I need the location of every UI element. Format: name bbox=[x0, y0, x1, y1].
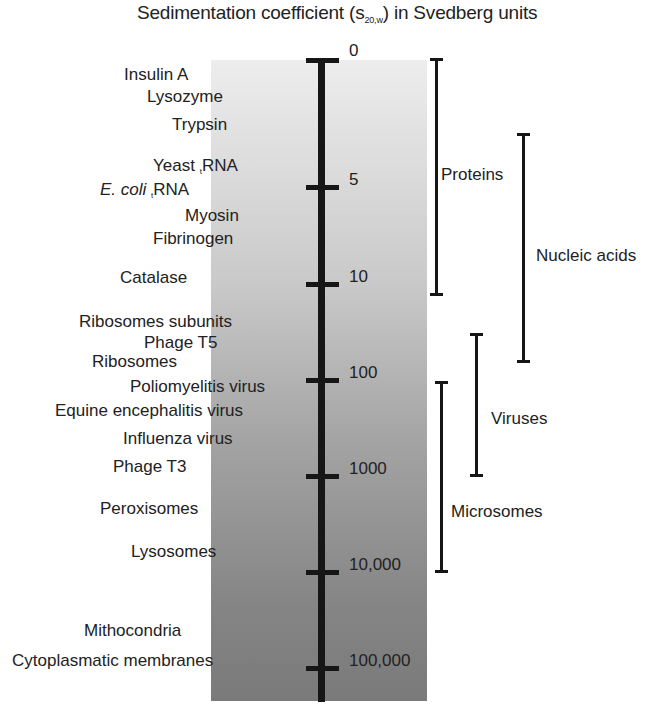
group-label-nucleic-acids: Nucleic acids bbox=[536, 246, 636, 266]
tick-5 bbox=[306, 185, 339, 190]
bracket-nucleic-acids bbox=[522, 133, 525, 363]
tick-label: 100,000 bbox=[349, 651, 410, 671]
tick-label: 1000 bbox=[349, 459, 387, 479]
group-label-microsomes: Microsomes bbox=[451, 502, 543, 522]
item-cytoplasmatic-membranes: Cytoplasmatic membranes bbox=[12, 651, 213, 671]
item-myosin: Myosin bbox=[185, 206, 239, 226]
item-phage-t3: Phage T3 bbox=[113, 457, 186, 477]
tick-10000 bbox=[306, 570, 339, 575]
diagram-title: Sedimentation coefficient (s20,w) in Sve… bbox=[137, 2, 537, 25]
item-yeast-trna: Yeast tRNA bbox=[153, 156, 238, 182]
bracket-proteins bbox=[435, 58, 438, 296]
item-mitochondria: Mithocondria bbox=[84, 621, 181, 641]
item-influenza-virus: Influenza virus bbox=[123, 429, 233, 449]
bracket-microsomes bbox=[440, 381, 443, 573]
group-label-viruses: Viruses bbox=[491, 409, 547, 429]
item-fibrinogen: Fibrinogen bbox=[153, 229, 233, 249]
item-peroxisomes: Peroxisomes bbox=[100, 499, 198, 519]
item-ribosome-subunits: Ribosomes subunits bbox=[79, 312, 232, 332]
item-trypsin: Trypsin bbox=[172, 115, 227, 135]
item-ecoli-trna: E. coli tRNA bbox=[100, 180, 189, 206]
item-phage-t5: Phage T5 bbox=[144, 333, 217, 353]
group-label-proteins: Proteins bbox=[441, 165, 503, 185]
item-lysosomes: Lysosomes bbox=[131, 542, 216, 562]
tick-100000 bbox=[306, 666, 339, 671]
tick-100 bbox=[306, 378, 339, 383]
item-lysozyme: Lysozyme bbox=[147, 87, 223, 107]
tick-label: 0 bbox=[349, 41, 358, 61]
item-poliomyelitis-virus: Poliomyelitis virus bbox=[130, 377, 265, 397]
item-ribosomes: Ribosomes bbox=[92, 352, 177, 372]
item-equine-encephalitis-virus: Equine encephalitis virus bbox=[55, 401, 243, 421]
tick-0 bbox=[306, 58, 339, 63]
item-insulin: Insulin A bbox=[124, 65, 188, 85]
tick-1000 bbox=[306, 474, 339, 479]
tick-label: 100 bbox=[349, 363, 377, 383]
tick-label: 10 bbox=[349, 267, 368, 287]
tick-10 bbox=[306, 282, 339, 287]
tick-label: 5 bbox=[349, 170, 358, 190]
tick-label: 10,000 bbox=[349, 555, 401, 575]
bracket-viruses bbox=[475, 333, 478, 477]
item-catalase: Catalase bbox=[120, 268, 187, 288]
